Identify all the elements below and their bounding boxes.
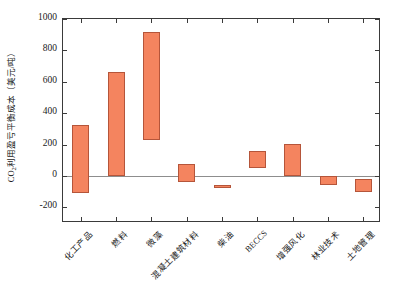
y-tick-label: -200	[21, 200, 57, 210]
y-axis-label: CO2利用盈亏平衡成本（美元/吨）	[4, 48, 16, 182]
bar	[108, 72, 125, 176]
y-tick-label: 0	[21, 169, 57, 179]
y-tick-label: 200	[21, 138, 57, 148]
y-tick-minor-right	[377, 145, 380, 146]
y-tick-minor-right	[377, 82, 380, 83]
y-axis-label-suffix: 利用盈亏平衡成本（美元/吨）	[6, 48, 16, 167]
x-tick-label: 增强风化	[272, 228, 306, 262]
x-tick	[257, 217, 258, 222]
y-tick-minor	[62, 145, 65, 146]
x-tick-top	[257, 18, 258, 23]
y-axis-label-prefix: CO	[6, 170, 16, 182]
chart-figure: CO2利用盈亏平衡成本（美元/吨） 10008006004002000-200 …	[0, 0, 397, 301]
x-tick	[328, 217, 329, 222]
y-axis-label-subscript: 2	[10, 167, 17, 170]
x-tick-label: 土地管理	[343, 228, 377, 262]
x-tick-label: 柴油	[214, 228, 235, 249]
bar	[72, 125, 89, 193]
y-tick-label: 800	[21, 43, 57, 53]
x-tick-top	[116, 18, 117, 23]
bar	[214, 185, 231, 189]
x-axis-tick-labels: 化工产品燃料微藻混凝土建筑材料柴油BECCS增强风化林业技术土地管理	[62, 224, 380, 301]
y-axis-label-wrap: CO2利用盈亏平衡成本（美元/吨）	[0, 0, 20, 230]
x-tick-top	[222, 18, 223, 23]
y-tick-minor-right	[377, 207, 380, 208]
y-tick-minor-right	[377, 113, 380, 114]
bar	[178, 164, 195, 182]
x-tick-top	[151, 18, 152, 23]
x-tick-top	[81, 18, 82, 23]
y-tick-major-right	[375, 19, 380, 20]
x-tick	[81, 217, 82, 222]
y-tick-minor	[62, 176, 65, 177]
x-tick-top	[363, 18, 364, 23]
x-tick	[116, 217, 117, 222]
x-tick-label: 化工产品	[60, 228, 94, 262]
bar	[143, 32, 160, 140]
plot-area	[62, 18, 380, 222]
bar	[320, 176, 337, 185]
y-tick-major	[62, 19, 67, 20]
x-tick-top	[187, 18, 188, 23]
x-tick-label: 林业技术	[308, 228, 342, 262]
x-tick	[222, 217, 223, 222]
x-tick	[293, 217, 294, 222]
x-tick	[151, 217, 152, 222]
x-tick-top	[328, 18, 329, 23]
y-tick-minor	[62, 113, 65, 114]
x-tick-label: 燃料	[108, 228, 129, 249]
bar	[249, 151, 266, 168]
y-tick-label: 600	[21, 75, 57, 85]
x-tick	[187, 217, 188, 222]
x-tick-label: BECCS	[243, 228, 269, 254]
y-tick-minor	[62, 207, 65, 208]
y-tick-minor-right	[377, 50, 380, 51]
x-tick-top	[293, 18, 294, 23]
y-tick-label: 400	[21, 106, 57, 116]
bar	[284, 144, 301, 176]
y-tick-minor	[62, 50, 65, 51]
x-tick	[363, 217, 364, 222]
bar	[355, 179, 372, 192]
y-tick-minor-right	[377, 176, 380, 177]
x-tick-label: 微藻	[144, 228, 165, 249]
y-tick-minor	[62, 82, 65, 83]
y-tick-label: 1000	[21, 12, 57, 22]
